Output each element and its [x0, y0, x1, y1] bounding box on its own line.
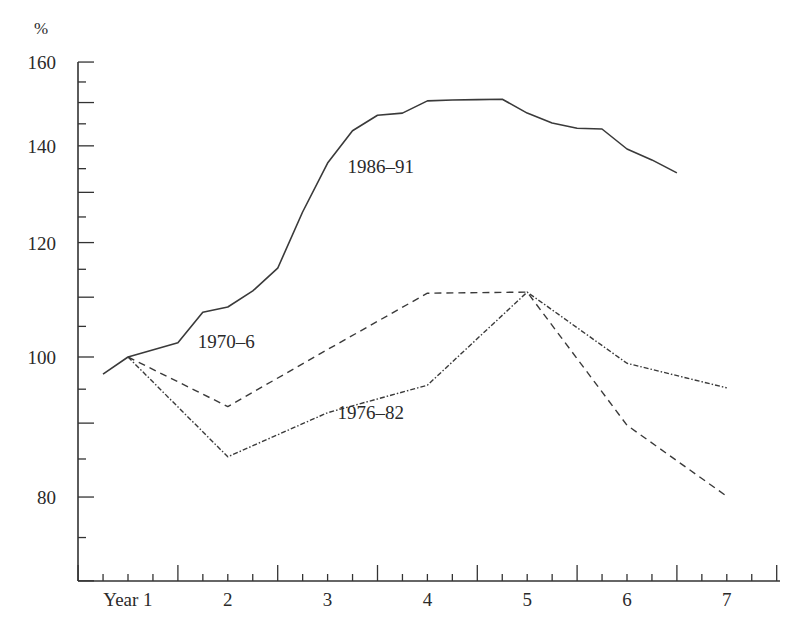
series-line-1976-82 [128, 292, 727, 457]
x-axis: Year 1234567 [78, 565, 780, 610]
series-layer [103, 99, 727, 496]
y-tick-label: 140 [28, 136, 57, 157]
y-tick-label: 120 [28, 233, 57, 254]
y-axis-unit-label: % [34, 19, 48, 38]
series-label: 1970–6 [198, 331, 255, 352]
x-tick-label: 4 [423, 589, 433, 610]
x-tick-label: 7 [722, 589, 732, 610]
x-tick-label: 2 [223, 589, 233, 610]
x-tick-label: Year 1 [103, 589, 152, 610]
x-tick-label: 6 [622, 589, 632, 610]
y-axis: 16014012010080 [28, 52, 95, 581]
series-label: 1976–82 [338, 402, 405, 423]
x-tick-label: 3 [323, 589, 333, 610]
y-tick-label: 100 [28, 347, 57, 368]
y-tick-label: 160 [28, 52, 57, 73]
y-tick-label: 80 [37, 487, 56, 508]
x-tick-label: 5 [522, 589, 532, 610]
series-labels: 1986–911970–61976–82 [198, 156, 414, 423]
series-line-1970-6 [128, 292, 727, 496]
line-chart: % 16014012010080 Year 1234567 1986–91197… [0, 0, 800, 623]
series-label: 1986–91 [348, 156, 415, 177]
series-line-1986-91 [103, 99, 677, 374]
